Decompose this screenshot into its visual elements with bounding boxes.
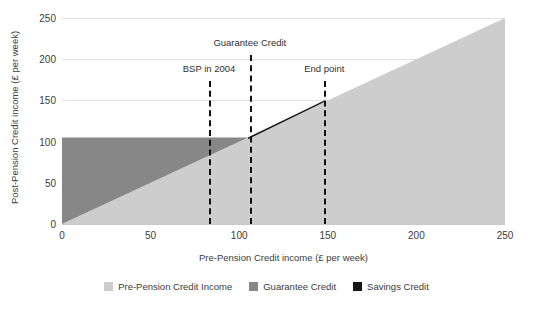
y-tick-label: 150: [12, 95, 56, 106]
annotation-line-end-point: [324, 81, 326, 224]
legend-item-pre-pension-credit-income: Pre-Pension Credit Income: [104, 281, 232, 292]
legend-label: Savings Credit: [367, 281, 429, 292]
x-tick-label: 150: [298, 230, 358, 241]
chart-figure: Post-Pension Credit income (£ per week) …: [0, 0, 533, 311]
annotation-line-bsp-in-2004: [209, 81, 211, 224]
y-tick-label: 250: [12, 13, 56, 24]
annotation-label-guarantee-credit: Guarantee Credit: [213, 37, 286, 48]
legend-swatch-icon: [249, 282, 258, 291]
legend-label: Pre-Pension Credit Income: [118, 281, 232, 292]
x-tick-label: 250: [475, 230, 533, 241]
y-tick-label: 0: [12, 219, 56, 230]
plot-area: [62, 18, 505, 224]
y-tick-label: 100: [12, 136, 56, 147]
legend-item-savings-credit: Savings Credit: [353, 281, 429, 292]
series-areas: [62, 18, 505, 224]
legend-swatch-icon: [353, 282, 362, 291]
x-axis-title: Pre-Pension Credit income (£ per week): [62, 252, 505, 263]
x-tick-label: 0: [32, 230, 92, 241]
x-tick-label: 200: [386, 230, 446, 241]
chart-legend: Pre-Pension Credit Income Guarantee Cred…: [0, 281, 533, 292]
legend-swatch-icon: [104, 282, 113, 291]
legend-item-guarantee-credit: Guarantee Credit: [249, 281, 336, 292]
legend-label: Guarantee Credit: [263, 281, 336, 292]
y-tick-label: 50: [12, 177, 56, 188]
y-axis-tick-labels: 0 50 100 150 200 250: [8, 0, 56, 311]
y-tick-label: 200: [12, 54, 56, 65]
annotation-label-bsp-in-2004: BSP in 2004: [183, 63, 236, 74]
x-axis-tick-labels: 0 50 100 150 200 250: [0, 230, 533, 246]
x-tick-label: 100: [209, 230, 269, 241]
annotation-line-guarantee-credit: [250, 55, 252, 224]
annotation-label-end-point: End point: [304, 63, 344, 74]
x-axis-line: [62, 224, 505, 225]
x-tick-label: 50: [121, 230, 181, 241]
